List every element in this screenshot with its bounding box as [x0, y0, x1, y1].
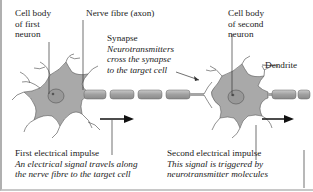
label-cell-body-second: Cell body of second neuron	[228, 8, 264, 40]
synapse-desc: Neurotransmitters	[107, 44, 174, 55]
label-second-impulse: Second electrical impulse This signal is…	[167, 148, 268, 180]
impulse-arrows	[100, 115, 294, 123]
second-impulse-desc: neurotransmitter molecules	[167, 169, 268, 180]
label-nerve-fibre: Nerve fibre (axon)	[86, 8, 154, 19]
label-cell-body-first: Cell body of first neuron	[15, 8, 51, 40]
label-line: neuron	[15, 29, 51, 40]
label-first-impulse: First electrical impulse An electrical s…	[15, 148, 137, 180]
first-impulse-title: First electrical impulse	[15, 148, 137, 159]
synapse-desc: to the target cell	[107, 65, 174, 76]
first-impulse-desc: An electrical signal travels along	[15, 159, 137, 170]
label-line: Cell body	[228, 8, 264, 19]
second-impulse-title: Second electrical impulse	[167, 148, 268, 159]
label-line: neuron	[228, 29, 264, 40]
second-impulse-desc: This signal is triggered by	[167, 159, 268, 170]
first-impulse-desc: the nerve fibre to the target cell	[15, 169, 137, 180]
label-line: of second	[228, 19, 264, 30]
label-line: of first	[15, 19, 51, 30]
synapse-desc: cross the synapse	[107, 54, 174, 65]
synapse-title: Synapse	[107, 33, 174, 44]
label-dendrite: Dendrite	[265, 60, 297, 71]
label-line: Cell body	[15, 8, 51, 19]
nerve-fibre-axon	[84, 82, 212, 108]
label-synapse: Synapse Neurotransmitters cross the syna…	[107, 33, 174, 75]
